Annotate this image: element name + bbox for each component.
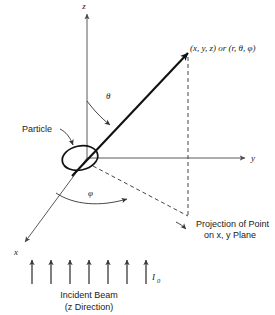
diagram-canvas: z y x (x, y, z) or (r, θ, φ) Particle (0, 0, 275, 315)
axis-z: z (81, 1, 87, 158)
particle-label: Particle (22, 124, 52, 134)
beam-intensity-symbol: I 0 (151, 272, 161, 284)
theta-label: θ (106, 91, 111, 101)
axis-x-label: x (13, 247, 18, 257)
projection-annotation: Projection of Point on x, y Plane (176, 219, 270, 240)
phi-label: φ (88, 188, 93, 198)
incident-beam-arrows (32, 260, 146, 284)
axis-y: y (87, 153, 255, 163)
angle-phi: φ (56, 188, 127, 204)
axis-y-label: y (250, 153, 255, 163)
projection-label-line1: Projection of Point (196, 219, 270, 229)
beam-intensity-letter: I (151, 272, 156, 282)
position-vector: (x, y, z) or (r, θ, φ) (72, 43, 255, 176)
projection-label-line2: on x, y Plane (204, 230, 256, 240)
theta-arc (87, 101, 110, 125)
beam-caption-line1: Incident Beam (60, 290, 118, 300)
angle-theta: θ (87, 91, 111, 125)
beam-caption-line2: (z Direction) (65, 302, 114, 312)
projection-leader-arrow (176, 222, 186, 229)
beam-intensity-subscript: 0 (157, 277, 161, 284)
incident-beam-caption: Incident Beam (z Direction) (60, 290, 118, 312)
axis-z-label: z (81, 1, 86, 11)
projection-lines (93, 57, 188, 216)
point-coordinates-label: (x, y, z) or (r, θ, φ) (190, 43, 255, 53)
projection-radial-dashed-line (93, 166, 188, 216)
scattering-geometry-diagram: z y x (x, y, z) or (r, θ, φ) Particle (0, 0, 275, 315)
particle-leader-arrow (60, 129, 73, 145)
particle-annotation: Particle (22, 124, 73, 145)
